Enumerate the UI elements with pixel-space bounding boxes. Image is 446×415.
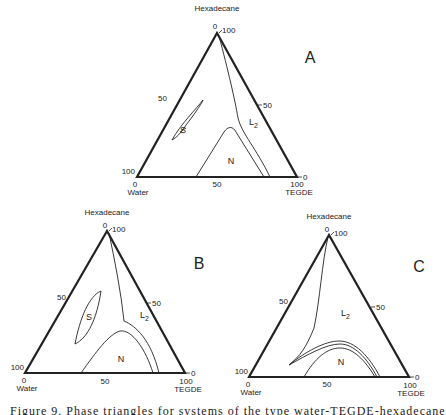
tick-label: 0 xyxy=(103,221,108,230)
panel-label: A xyxy=(305,49,316,66)
tick-label: 0 xyxy=(213,22,218,31)
region-label-l2: L2 xyxy=(341,308,350,320)
top-component-label: Hexadecane xyxy=(307,212,352,221)
tick-label: 50 xyxy=(263,101,272,110)
tick-label: 50 xyxy=(376,303,385,312)
tick-label: 50 xyxy=(57,293,66,302)
l2-region-boundary xyxy=(289,237,328,365)
region-label-n: N xyxy=(228,156,235,166)
tick-label: 100 xyxy=(122,167,136,176)
panel-a: Hexadecane 0 100 50 50 100 0 Water 50 10… xyxy=(122,4,316,197)
tick-label: 50 xyxy=(158,94,167,103)
tick-label: 50 xyxy=(152,299,161,308)
figure-caption: Figure 9. Phase triangles for systems of… xyxy=(10,404,446,415)
left-component-label: Water xyxy=(127,188,148,197)
tick-label: 50 xyxy=(101,377,110,386)
tick-label: 100 xyxy=(222,26,236,35)
top-component-label: Hexadecane xyxy=(195,4,240,13)
tick-label: 100 xyxy=(112,225,126,234)
right-component-label: TEGDE xyxy=(397,389,425,398)
triangle-outline xyxy=(25,231,185,373)
n-region-boundary xyxy=(196,128,264,178)
panel-label: C xyxy=(413,258,425,275)
region-label-s: S xyxy=(180,125,186,135)
two-phase-boundary-outer xyxy=(289,341,380,377)
tick-label: 50 xyxy=(279,297,288,306)
tick-label: 0 xyxy=(191,369,196,378)
panel-b: Hexadecane 0 100 50 50 100 0 Water 50 10… xyxy=(11,208,205,394)
tick-label: 100 xyxy=(334,229,348,238)
tick-label: 0 xyxy=(415,373,420,382)
region-label-n: N xyxy=(118,354,125,364)
region-label-n: N xyxy=(338,357,345,367)
left-component-label: Water xyxy=(16,384,37,393)
tick-label: 50 xyxy=(323,380,332,389)
tick-label: 0 xyxy=(303,173,308,182)
tick-label: 50 xyxy=(213,180,222,189)
region-label-l2: L2 xyxy=(140,310,149,322)
tick-label: 0 xyxy=(325,225,330,234)
panel-c: Hexadecane 0 100 50 50 100 0 Water 50 10… xyxy=(235,212,425,398)
top-component-label: Hexadecane xyxy=(85,208,130,217)
triangle-outline xyxy=(137,33,297,177)
right-component-label: TEGDE xyxy=(285,188,313,197)
region-label-s: S xyxy=(86,312,92,322)
tick-label: 100 xyxy=(11,363,25,372)
n-region-boundary xyxy=(81,331,153,373)
tick-label: 100 xyxy=(235,367,249,376)
region-label-l2: L2 xyxy=(249,117,258,129)
panel-label: B xyxy=(194,255,205,272)
triangle-outline xyxy=(249,235,409,377)
left-component-label: Water xyxy=(240,388,261,397)
right-component-label: TEGDE xyxy=(174,385,202,394)
